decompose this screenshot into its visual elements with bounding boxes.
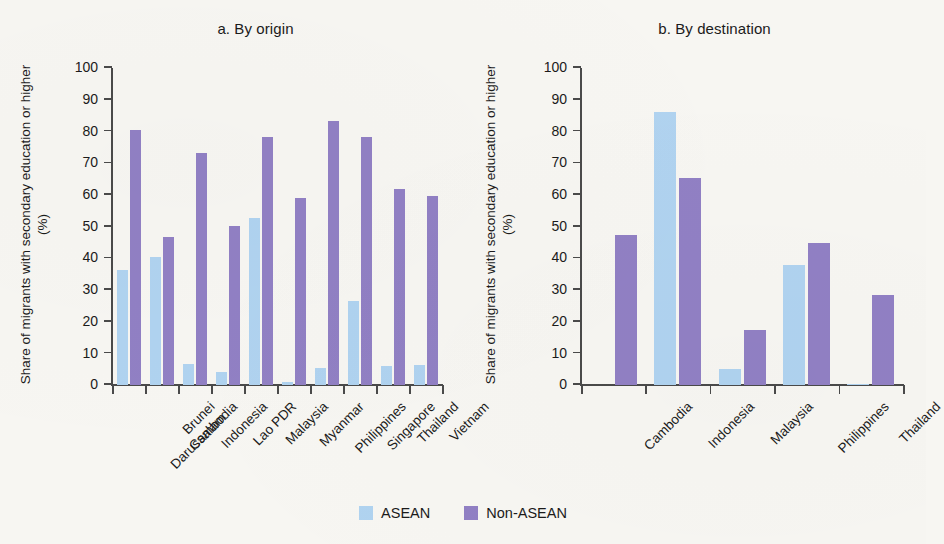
y-axis-tick-label: 80 (82, 123, 98, 139)
bar-non-asean[interactable] (196, 153, 207, 385)
bar-group (216, 68, 240, 385)
panel-title-by-origin: a. By origin (0, 20, 463, 37)
legend-item-asean[interactable]: ASEAN (359, 505, 430, 521)
bar-asean[interactable] (150, 257, 161, 385)
chart-panel-by-destination: b. By destination Share of migrants with… (463, 0, 926, 500)
bar-asean[interactable] (249, 218, 260, 385)
y-axis-line-by-destination (580, 68, 582, 385)
bar-asean[interactable] (654, 112, 676, 385)
y-axis-tick-label: 20 (551, 313, 567, 329)
bar-asean[interactable] (183, 364, 194, 385)
y-axis-tick-label: 0 (559, 376, 567, 392)
y-axis-tick: 30 (104, 288, 112, 290)
bar-non-asean[interactable] (744, 330, 766, 385)
x-axis-tick (211, 385, 213, 394)
y-axis-tick-label: 60 (551, 186, 567, 202)
bar-non-asean[interactable] (615, 235, 637, 385)
legend-label: ASEAN (381, 505, 430, 521)
y-axis-tick: 80 (104, 130, 112, 132)
bar-asean[interactable] (414, 365, 425, 385)
bar-asean[interactable] (381, 366, 392, 385)
x-axis-tick (376, 385, 378, 394)
bar-non-asean[interactable] (130, 130, 141, 385)
x-axis-tick (277, 385, 279, 394)
y-axis-tick-label: 50 (82, 218, 98, 234)
bar-asean[interactable] (348, 301, 359, 385)
legend-label: Non-ASEAN (486, 505, 567, 521)
bar-non-asean[interactable] (872, 295, 894, 385)
y-axis-tick: 60 (104, 193, 112, 195)
bar-asean[interactable] (315, 368, 326, 385)
x-axis-tick (774, 385, 776, 394)
y-axis-tick: 80 (573, 130, 581, 132)
x-axis-tick (581, 385, 583, 394)
x-axis-tick (145, 385, 147, 394)
x-axis-tick (645, 385, 647, 394)
plot-area-by-origin: 0102030405060708090100Brunei DarussalamC… (112, 68, 442, 385)
y-axis-tick-label: 10 (82, 345, 98, 361)
bar-non-asean[interactable] (679, 178, 701, 385)
bar-non-asean[interactable] (163, 237, 174, 385)
x-axis-tick (178, 385, 180, 394)
bar-group (719, 68, 766, 385)
bar-group (183, 68, 207, 385)
x-axis-category-label: Cambodia (641, 399, 695, 453)
bar-group (381, 68, 405, 385)
x-axis-tick (710, 385, 712, 394)
y-axis-tick-label: 10 (551, 345, 567, 361)
bar-non-asean[interactable] (361, 137, 372, 385)
y-axis-tick: 100 (573, 66, 581, 68)
y-axis-title-by-origin: Share of migrants with secondary educati… (12, 62, 56, 387)
y-axis-tick: 20 (104, 320, 112, 322)
bar-non-asean[interactable] (808, 243, 830, 385)
y-axis-tick: 20 (573, 320, 581, 322)
y-axis-tick-label: 70 (82, 154, 98, 170)
y-axis-line-by-origin (111, 68, 113, 385)
x-axis-tick (310, 385, 312, 394)
y-axis-tick-label: 100 (544, 59, 567, 75)
x-axis-category-label: Indonesia (705, 399, 757, 451)
bar-asean[interactable] (847, 384, 869, 385)
y-axis-tick-label: 40 (82, 249, 98, 265)
y-axis-tick-label: 20 (82, 313, 98, 329)
y-axis-tick: 10 (104, 352, 112, 354)
bar-non-asean[interactable] (394, 189, 405, 385)
bar-asean[interactable] (783, 265, 805, 385)
asean-swatch (359, 506, 373, 520)
bar-non-asean[interactable] (295, 198, 306, 385)
non-asean-swatch (464, 506, 478, 520)
bar-asean[interactable] (282, 382, 293, 385)
y-axis-tick: 70 (573, 162, 581, 164)
bar-group (282, 68, 306, 385)
y-axis-tick-label: 90 (551, 91, 567, 107)
x-axis-tick (903, 385, 905, 394)
x-axis-category-label: Malaysia (768, 399, 817, 448)
bar-non-asean[interactable] (427, 196, 438, 385)
y-axis-tick: 50 (573, 225, 581, 227)
bar-non-asean[interactable] (262, 137, 273, 385)
x-axis-category-label: Philippines (836, 399, 893, 456)
y-axis-tick: 0 (573, 383, 581, 385)
bar-group (315, 68, 339, 385)
x-axis-tick (839, 385, 841, 394)
bar-asean[interactable] (117, 270, 128, 385)
y-axis-tick-label: 60 (82, 186, 98, 202)
bar-group (654, 68, 701, 385)
y-axis-tick: 40 (104, 257, 112, 259)
bar-non-asean[interactable] (328, 121, 339, 385)
y-axis-tick: 40 (573, 257, 581, 259)
bar-non-asean[interactable] (229, 226, 240, 385)
bar-asean[interactable] (216, 372, 227, 385)
bar-group (249, 68, 273, 385)
y-axis-tick: 30 (573, 288, 581, 290)
y-axis-tick-label: 70 (551, 154, 567, 170)
legend-item-non-asean[interactable]: Non-ASEAN (464, 505, 567, 521)
y-axis-tick-label: 90 (82, 91, 98, 107)
y-axis-tick: 50 (104, 225, 112, 227)
x-axis-tick (442, 385, 444, 394)
y-axis-tick: 90 (104, 98, 112, 100)
bar-group (414, 68, 438, 385)
bar-asean[interactable] (719, 369, 741, 385)
chart-panel-by-origin: a. By origin Share of migrants with seco… (0, 0, 463, 500)
